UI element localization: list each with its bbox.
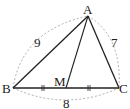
- triangle-diagram: A B C M 9 7 8: [0, 0, 130, 109]
- label-c: C: [119, 81, 128, 96]
- length-ab: 9: [34, 35, 41, 50]
- side-ac: [88, 16, 119, 88]
- label-a: A: [83, 2, 93, 17]
- length-ac: 7: [111, 35, 118, 50]
- label-m: M: [54, 74, 66, 89]
- length-bc: 8: [63, 96, 70, 109]
- label-b: B: [2, 81, 11, 96]
